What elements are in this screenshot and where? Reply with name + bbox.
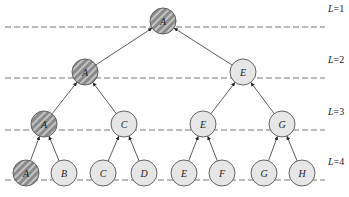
tree-node-c: C xyxy=(111,111,137,137)
tree-node-e: E xyxy=(190,111,216,137)
svg-text:B: B xyxy=(61,168,67,179)
tree-edge xyxy=(211,82,235,113)
tree-edge xyxy=(52,82,77,114)
svg-text:A: A xyxy=(22,168,30,179)
tree-node-a: A xyxy=(150,8,176,34)
tree-edge xyxy=(93,82,116,113)
tree-edge xyxy=(189,136,199,161)
tree-node-c: C xyxy=(90,160,116,186)
tree-node-e: E xyxy=(171,160,197,186)
tree-edge xyxy=(108,136,119,161)
tree-edge xyxy=(129,136,139,161)
level-label: L=1 xyxy=(328,3,344,14)
svg-text:E: E xyxy=(239,67,246,78)
svg-text:G: G xyxy=(278,119,285,130)
tree-svg: AAEACEGABCDEFGH xyxy=(0,0,349,197)
svg-text:A: A xyxy=(159,16,167,27)
svg-text:H: H xyxy=(297,168,306,179)
tree-node-e: E xyxy=(230,59,256,85)
tree-node-d: D xyxy=(131,160,157,186)
tree-edge xyxy=(268,136,277,161)
svg-text:A: A xyxy=(81,67,89,78)
level-label: L=2 xyxy=(328,54,344,65)
svg-text:D: D xyxy=(139,168,148,179)
svg-text:F: F xyxy=(218,168,226,179)
svg-text:E: E xyxy=(199,119,206,130)
tree-edge xyxy=(49,136,59,161)
level-label: L=4 xyxy=(328,156,344,167)
tree-diagram: AAEACEGABCDEFGH L=1L=2L=3L=4 xyxy=(0,0,349,197)
svg-text:C: C xyxy=(100,168,107,179)
tree-node-a: A xyxy=(72,59,98,85)
svg-text:E: E xyxy=(180,168,187,179)
tree-node-a: A xyxy=(13,160,39,186)
svg-text:A: A xyxy=(40,119,48,130)
tree-edge xyxy=(287,136,297,161)
tree-node-g: G xyxy=(269,111,295,137)
tree-node-h: H xyxy=(289,160,315,186)
level-label: L=3 xyxy=(328,106,344,117)
tree-edge xyxy=(208,136,218,161)
tree-node-b: B xyxy=(51,160,77,186)
tree-edge xyxy=(174,28,232,65)
tree-edge xyxy=(96,28,152,65)
tree-node-a: A xyxy=(31,111,57,137)
tree-edge xyxy=(251,82,274,113)
svg-text:G: G xyxy=(260,168,267,179)
tree-edge xyxy=(30,136,39,161)
svg-text:C: C xyxy=(121,119,128,130)
tree-node-f: F xyxy=(209,160,235,186)
tree-node-g: G xyxy=(251,160,277,186)
